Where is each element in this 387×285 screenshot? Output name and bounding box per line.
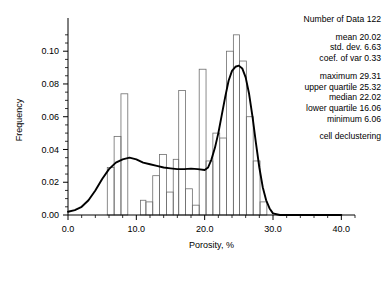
- stats-row: Number of Data 122: [229, 14, 381, 25]
- stats-value: 122: [367, 14, 381, 24]
- stats-label: std. dev.: [330, 42, 364, 52]
- x-axis-tick-label: 0.0: [62, 224, 75, 234]
- stats-value: 20.02: [359, 32, 381, 42]
- x-axis-title: Porosity, %: [189, 240, 234, 250]
- y-axis-tick-label: 0.00: [41, 210, 59, 220]
- stats-row: median 22.02: [229, 92, 381, 103]
- stats-label: coef. of var: [319, 53, 364, 63]
- histogram-bar: [199, 69, 206, 215]
- x-axis-tick-label: 20.0: [196, 224, 214, 234]
- histogram-bar: [220, 138, 227, 215]
- stats-row: std. dev. 6.63: [229, 42, 381, 53]
- stats-row: mean 20.02: [229, 32, 381, 43]
- stats-label: lower quartile: [306, 103, 360, 113]
- stats-value: 16.06: [359, 103, 381, 113]
- y-axis-tick-label: 0.06: [41, 112, 59, 122]
- histogram-bar: [166, 192, 173, 215]
- stats-label: median: [329, 92, 360, 102]
- stats-label: minimum: [327, 114, 364, 124]
- y-axis-tick-label: 0.10: [41, 46, 59, 56]
- stats-value: 29.31: [359, 71, 381, 81]
- histogram-bar: [146, 202, 153, 215]
- x-axis-tick-label: 30.0: [264, 224, 282, 234]
- stats-label: upper quartile: [305, 82, 360, 92]
- histogram-bar: [186, 189, 193, 215]
- histogram-bar: [153, 176, 160, 215]
- stats-value: 6.63: [364, 42, 381, 52]
- histogram-bar: [160, 154, 167, 215]
- stats-label: maximum: [320, 71, 360, 81]
- stats-label: mean: [336, 32, 360, 42]
- histogram-figure: 0.000.020.040.060.080.100.010.020.030.04…: [0, 0, 387, 285]
- stats-value: 6.06: [364, 114, 381, 124]
- histogram-bar: [107, 168, 114, 216]
- stats-row: upper quartile 25.32: [229, 82, 381, 93]
- x-axis-tick-label: 40.0: [333, 224, 351, 234]
- stats-value: 22.02: [359, 92, 381, 102]
- y-axis-tick-label: 0.04: [41, 145, 59, 155]
- stats-spacer: [229, 25, 381, 32]
- histogram-bar: [173, 159, 178, 215]
- stats-value: 25.32: [359, 82, 381, 92]
- stats-row: coef. of var 0.33: [229, 53, 381, 64]
- histogram-bar: [121, 94, 128, 215]
- x-axis-tick-label: 10.0: [128, 224, 146, 234]
- stats-value: 0.33: [364, 53, 381, 63]
- stats-note: cell declustering: [229, 131, 381, 142]
- histogram-bar: [179, 91, 186, 215]
- histogram-bar: [192, 205, 199, 215]
- histogram-bar: [114, 136, 121, 215]
- stats-spacer: [229, 64, 381, 71]
- statistics-panel: Number of Data 122mean 20.02std. dev. 6.…: [229, 14, 381, 142]
- y-axis-title: Frequency: [14, 98, 24, 141]
- y-axis-tick-label: 0.02: [41, 177, 59, 187]
- stats-row: maximum 29.31: [229, 71, 381, 82]
- stats-row: minimum 6.06: [229, 114, 381, 125]
- histogram-bar: [260, 202, 267, 215]
- y-axis-tick-label: 0.08: [41, 79, 59, 89]
- stats-label: Number of Data: [304, 14, 367, 24]
- histogram-bar: [140, 200, 145, 215]
- stats-row: lower quartile 16.06: [229, 103, 381, 114]
